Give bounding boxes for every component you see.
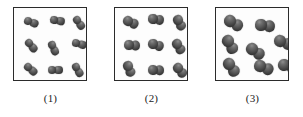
molecule-field-3 [216,8,288,80]
panel-caption-1: (1) [0,92,101,104]
atom-sphere [148,14,158,24]
panel-2: (2) [101,0,202,117]
molecule-figure: (1) (2) (3) [0,0,303,117]
container-box-3 [215,7,289,81]
atom-sphere [124,40,134,50]
atom-sphere [148,65,158,75]
atom-sphere [277,58,289,72]
panel-caption-3: (3) [202,92,303,104]
panel-caption-2: (2) [101,92,202,104]
container-box-2 [114,7,188,81]
panel-3: (3) [202,0,303,117]
atom-sphere [255,19,268,32]
container-box-1 [13,7,87,81]
molecule-field-2 [115,8,187,80]
molecule-field-1 [14,8,86,80]
panel-1: (1) [0,0,101,117]
